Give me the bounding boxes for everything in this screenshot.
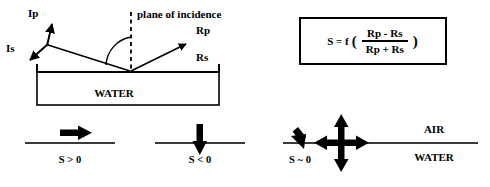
four-way-cross-arrows-icon (314, 114, 369, 172)
label-water-interface: WATER (414, 152, 454, 163)
case-s-positive-graphic (25, 126, 115, 144)
label-is: Is (6, 43, 15, 54)
label-s-negative: S < 0 (189, 155, 211, 166)
down-arrow-icon (193, 124, 208, 155)
equation-box: S = f ( Rp - Rs Rp + Rs ) (299, 17, 447, 65)
equation-close-paren: ) (413, 33, 418, 50)
diagram-canvas: Ip Is plane of incidence Rp Rs WATER S >… (0, 0, 490, 187)
is-polarization-arrow (30, 44, 48, 60)
equation-numerator: Rp - Rs (363, 27, 406, 40)
ip-polarization-arrow (47, 24, 52, 46)
label-ip: Ip (28, 8, 38, 19)
reflected-ray (131, 44, 186, 71)
equation-denominator: Rp + Rs (362, 42, 408, 55)
case-s-negative-graphic (155, 124, 245, 155)
incident-ray (48, 45, 130, 71)
equation-lhs: S = f (327, 35, 349, 47)
oblique-incident-arrow-icon (291, 127, 306, 149)
label-rp: Rp (196, 25, 210, 36)
angle-of-incidence-arc (106, 37, 131, 65)
label-air: AIR (424, 124, 444, 135)
label-water-body: WATER (94, 88, 134, 99)
equation-open-paren: ( (352, 33, 357, 50)
case-s-zero-graphic (283, 114, 478, 172)
equation-fraction: Rp - Rs Rp + Rs (362, 27, 408, 55)
equation-content: S = f ( Rp - Rs Rp + Rs ) (301, 19, 445, 63)
right-arrow-icon (60, 126, 92, 141)
label-s-zero: S ~ 0 (289, 155, 311, 166)
label-s-positive: S > 0 (59, 155, 81, 166)
label-rs: Rs (196, 52, 208, 63)
label-plane-of-incidence: plane of incidence (137, 9, 221, 20)
